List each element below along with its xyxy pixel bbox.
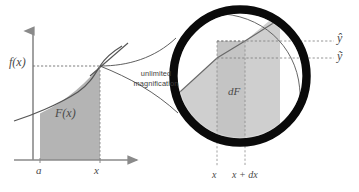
label-capital-f-of-x: F(x) (55, 107, 76, 119)
label-f-of-x: f(x) (9, 56, 26, 68)
magnification-caption: unlimited magnification (119, 69, 193, 88)
magnification-caption-line2: magnification (134, 79, 179, 88)
label-magnified-x-plus-dx: x + dx (232, 170, 258, 180)
calculus-diagram (0, 0, 359, 192)
label-magnified-x: x (212, 170, 216, 180)
left-plot-group (14, 31, 137, 163)
label-dF: dF (228, 86, 240, 97)
label-x-tick-a: a (36, 165, 42, 176)
label-y-tilde: ỹ (337, 50, 342, 62)
magnification-caption-line1: unlimited (141, 69, 171, 78)
label-x-tick-x: x (94, 165, 99, 176)
lens-contents (170, 8, 336, 182)
label-y-hat: ŷ (337, 32, 342, 44)
beam-upper (100, 38, 176, 66)
